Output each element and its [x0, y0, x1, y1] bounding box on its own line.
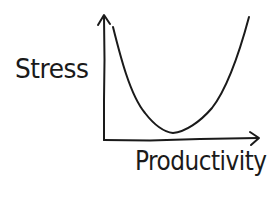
y-axis — [104, 16, 105, 140]
y-axis-label: Stress — [15, 53, 89, 84]
u-curve — [113, 17, 249, 133]
x-axis — [104, 138, 258, 141]
x-axis-label: Productivity — [135, 145, 266, 176]
